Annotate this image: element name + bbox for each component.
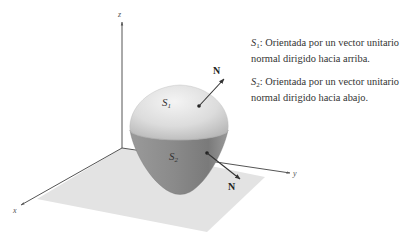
caption-s1: S1: Orientada por un vector unitario nor… — [251, 37, 409, 65]
orientation-diagram: z x y S1 S2 N N — [0, 0, 409, 233]
surface-s1 — [130, 85, 228, 140]
normal-label-s1: N — [213, 65, 221, 76]
normal-label-s2: N — [228, 181, 236, 192]
y-axis-label: y — [292, 169, 297, 178]
x-axis-label: x — [12, 206, 17, 215]
caption-s2-text: : Orientada por un vector unitario norma… — [251, 76, 399, 103]
z-axis-label: z — [117, 10, 122, 19]
caption-s1-text: : Orientada por un vector unitario norma… — [251, 37, 399, 64]
caption-s2: S2: Orientada por un vector unitario nor… — [251, 76, 409, 104]
